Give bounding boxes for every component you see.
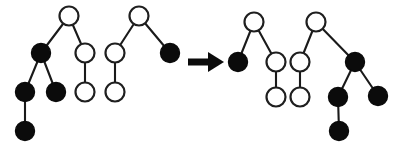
tree-node-hollow xyxy=(291,88,310,107)
tree-node-filled xyxy=(16,122,35,141)
tree-nodes-left-tree-1 xyxy=(16,7,95,141)
arrow-shaft xyxy=(188,59,210,66)
tree-transformation-figure xyxy=(0,0,399,152)
tree-node-hollow xyxy=(267,88,286,107)
nodes-layer xyxy=(16,7,388,141)
tree-node-hollow xyxy=(106,44,125,63)
tree-node-filled xyxy=(369,87,388,106)
tree-edges-left-tree-1 xyxy=(25,16,85,131)
tree-node-filled xyxy=(32,44,51,63)
tree-node-filled xyxy=(329,88,348,107)
tree-node-filled xyxy=(161,44,180,63)
tree-node-filled xyxy=(330,122,349,141)
tree-node-hollow xyxy=(245,13,264,32)
tree-node-hollow xyxy=(307,13,326,32)
tree-node-hollow xyxy=(76,44,95,63)
tree-nodes-right-tree-2 xyxy=(291,13,388,141)
tree-node-filled xyxy=(346,53,365,72)
arrow-head xyxy=(208,52,224,72)
tree-node-hollow xyxy=(106,83,125,102)
tree-node-filled xyxy=(47,83,66,102)
rightwards-transform-arrow xyxy=(188,52,224,72)
tree-node-filled xyxy=(16,83,35,102)
edges-layer xyxy=(25,16,378,131)
tree-node-hollow xyxy=(130,7,149,26)
tree-edges-right-tree-2 xyxy=(300,22,378,131)
tree-node-filled xyxy=(229,53,248,72)
tree-nodes-left-tree-2 xyxy=(106,7,180,102)
tree-node-hollow xyxy=(76,83,95,102)
diagram-canvas xyxy=(0,0,399,152)
tree-node-hollow xyxy=(267,53,286,72)
tree-nodes-right-tree-1 xyxy=(229,13,286,107)
tree-node-hollow xyxy=(291,53,310,72)
tree-node-hollow xyxy=(60,7,79,26)
